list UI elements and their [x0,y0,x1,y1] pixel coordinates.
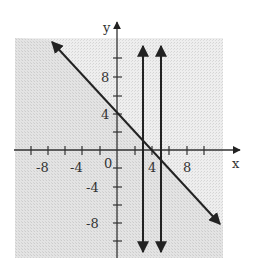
x-tick-label-neg8: -8 [36,160,49,175]
y-tick-label-8: 8 [101,70,109,85]
x-axis-label: x [232,156,240,171]
origin-label: 0 [104,156,112,171]
y-tick-label-neg4: -4 [86,180,99,195]
y-tick-label-neg8: -8 [86,216,99,231]
x-tick-label-8: 8 [183,160,191,175]
y-axis-label: y [102,20,111,35]
coordinate-plane: y x 0 -8 -4 4 8 8 4 -4 -8 [0,0,256,275]
y-tick-label-4: 4 [101,107,109,122]
x-tick-label-neg4: -4 [70,160,83,175]
x-tick-label-4: 4 [148,160,156,175]
